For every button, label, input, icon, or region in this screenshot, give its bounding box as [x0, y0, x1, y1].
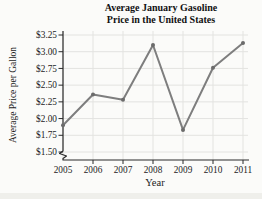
gasoline-price-line-chart: Average January Gasoline Price in the Un…	[0, 0, 262, 199]
data-point-2005	[61, 123, 65, 127]
x-tick-label: 2007	[114, 165, 133, 175]
plot-area: $3.25$3.00$2.75$2.50$2.25$2.00$1.75$1.50…	[0, 0, 262, 199]
data-point-2011	[241, 41, 245, 45]
scan-artifact-strip	[0, 193, 262, 199]
y-tick-label: $1.75	[36, 130, 57, 140]
x-tick-label: 2011	[234, 165, 253, 175]
data-point-2010	[211, 66, 215, 70]
data-point-2009	[181, 128, 185, 132]
y-tick-label: $3.00	[36, 47, 57, 57]
x-axis-title: Year	[55, 177, 255, 188]
y-tick-label: $2.00	[36, 114, 57, 124]
y-tick-label: $2.50	[36, 80, 57, 90]
y-tick-label: $2.75	[36, 64, 57, 74]
x-tick-label: 2009	[174, 165, 193, 175]
y-tick-label: $2.25	[36, 97, 57, 107]
data-point-2008	[151, 43, 155, 47]
y-tick-label: $3.25	[36, 30, 57, 40]
x-tick-label: 2005	[54, 165, 73, 175]
y-tick-label: $1.50	[36, 147, 57, 157]
x-tick-label: 2010	[204, 165, 223, 175]
x-tick-label: 2008	[144, 165, 163, 175]
data-point-2007	[121, 98, 125, 102]
x-tick-label: 2006	[84, 165, 103, 175]
data-point-2006	[91, 93, 95, 97]
